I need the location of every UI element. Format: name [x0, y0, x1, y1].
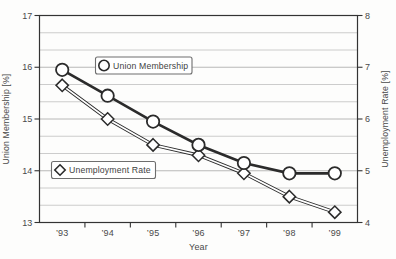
- legend-label: Unemployment Rate: [69, 165, 151, 175]
- x-axis-tick-label: ’97: [238, 228, 250, 238]
- series-union-membership-marker: [329, 167, 341, 179]
- right-axis-tick-label: 8: [365, 11, 370, 21]
- chart-background: [0, 0, 396, 259]
- left-axis-tick-label: 13: [22, 218, 32, 228]
- legend-label: Union Membership: [113, 61, 188, 71]
- series-union-membership-marker: [283, 167, 295, 179]
- x-axis-tick-label: ’94: [101, 228, 113, 238]
- x-axis-tick-label: ’99: [329, 228, 341, 238]
- right-axis-tick-label: 5: [365, 166, 370, 176]
- series-union-membership-marker: [56, 64, 68, 76]
- legend-union-membership: Union Membership: [96, 57, 193, 74]
- x-axis-title: Year: [189, 242, 208, 252]
- right-axis-tick-label: 6: [365, 114, 370, 124]
- dual-axis-line-chart: 171615141387654’93’94’95’96’97’98’99Unio…: [0, 0, 396, 259]
- right-axis-tick-label: 7: [365, 62, 370, 72]
- legend-unemployment-rate: Unemployment Rate: [52, 162, 156, 179]
- left-axis-tick-label: 14: [22, 166, 32, 176]
- x-axis-tick-label: ’96: [192, 228, 204, 238]
- x-axis-tick-label: ’95: [147, 228, 159, 238]
- left-axis-tick-label: 16: [22, 62, 32, 72]
- x-axis-tick-label: ’98: [283, 228, 295, 238]
- left-axis-tick-label: 15: [22, 114, 32, 124]
- x-axis-tick-label: ’93: [56, 228, 68, 238]
- left-axis-title: Union Membership [%]: [1, 74, 11, 165]
- series-union-membership-marker: [147, 115, 159, 127]
- right-axis-tick-label: 4: [365, 218, 370, 228]
- left-axis-tick-label: 17: [22, 11, 32, 21]
- legend-circle-icon: [99, 60, 109, 70]
- chart-figure: 171615141387654’93’94’95’96’97’98’99Unio…: [0, 0, 396, 259]
- series-union-membership-marker: [238, 157, 250, 169]
- right-axis-title: Unemployment Rate [%]: [380, 70, 390, 167]
- series-union-membership-marker: [101, 90, 113, 102]
- series-union-membership-marker: [192, 139, 204, 151]
